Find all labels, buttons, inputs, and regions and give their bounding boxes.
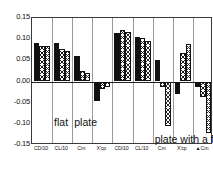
- y-tick-label: -0.05: [2, 98, 30, 106]
- x-tick-label-4: CD/10: [114, 146, 128, 151]
- bar-flap-CL10-2: [145, 41, 150, 81]
- grid-line: [153, 18, 154, 143]
- bar-flap-Cm-2: [165, 82, 170, 126]
- grid-line: [112, 18, 113, 143]
- grid-line: [52, 18, 53, 143]
- bar-flat-plate-CL10-2: [65, 51, 70, 81]
- x-tick-label-7: X'cp: [177, 146, 187, 151]
- plot-area: flatplateplate with a flap: [31, 17, 212, 144]
- zero-axis-line: [32, 82, 211, 83]
- x-tick-label-0: CD/10: [34, 146, 48, 151]
- x-tick-label-5: CL/10: [135, 146, 148, 151]
- y-tick-label: -0.10: [2, 119, 30, 127]
- x-tick-label-8: ▲Cm: [195, 146, 208, 151]
- y-tick-label: 0.00: [2, 77, 30, 85]
- grid-line: [72, 18, 73, 143]
- y-tick-label: 0.05: [2, 56, 30, 64]
- bar-flap-Xcp-0: [175, 82, 180, 95]
- x-tick-label-1: CL/10: [54, 146, 67, 151]
- y-tick-label: 0.10: [2, 34, 30, 42]
- bar-flap-CD10-2: [125, 32, 130, 82]
- annotation-label: plate: [74, 117, 97, 128]
- y-tick-label: 0.15: [2, 13, 30, 21]
- bar-flat-plate-Xcp-2: [105, 82, 110, 88]
- annotation-label: plate with a flap: [155, 134, 213, 145]
- annotation-label: flat: [54, 117, 68, 128]
- chart-figure: 0.150.100.050.00-0.05-0.10-0.15 flatplat…: [0, 0, 213, 169]
- bar-flap-Cm-0: [155, 60, 160, 81]
- x-tick-label-3: X'cp: [97, 146, 107, 151]
- x-axis-tick-labels: CD/10CL/10CmX'cpCD/10CL/10CmX'cp▲Cm: [0, 146, 213, 158]
- bar-flap-Xcp-2: [186, 44, 191, 82]
- grid-line: [173, 18, 174, 143]
- y-axis-tick-labels: 0.150.100.050.00-0.05-0.10-0.15: [0, 0, 30, 169]
- grid-line: [193, 18, 194, 143]
- bar-flap-deltaCm-2: [206, 82, 211, 134]
- bar-flat-plate-CD10-2: [45, 46, 50, 82]
- x-tick-label-2: Cm: [77, 146, 85, 151]
- x-tick-label-6: Cm: [158, 146, 166, 151]
- bar-flat-plate-Cm-2: [85, 73, 90, 82]
- plot-inner: flatplateplate with a flap: [32, 18, 211, 143]
- grid-line: [133, 18, 134, 143]
